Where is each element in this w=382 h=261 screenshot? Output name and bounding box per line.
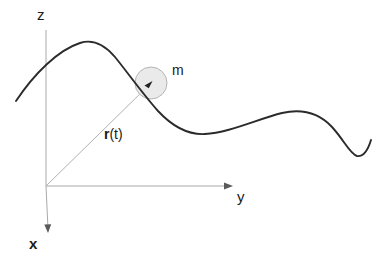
particle-mass-label: m (172, 63, 184, 77)
physics-diagram: z m y x r(t) (0, 0, 382, 261)
position-vector-line (46, 86, 148, 186)
x-axis-label: x (29, 236, 37, 251)
trajectory-curve (16, 42, 371, 156)
y-axis-label: y (237, 189, 245, 204)
position-vector-argument: (t) (109, 126, 122, 142)
z-axis-label: z (37, 7, 45, 22)
position-vector-label: r(t) (104, 127, 123, 141)
x-axis-arrowhead-icon (44, 224, 51, 233)
diagram-canvas (0, 0, 382, 261)
y-axis-arrowhead-icon (224, 183, 233, 190)
x-axis-line (46, 186, 48, 229)
